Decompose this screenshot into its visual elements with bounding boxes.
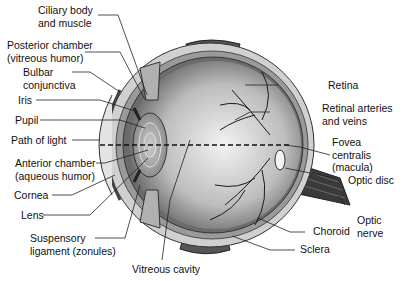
- label-cornea: Cornea: [14, 189, 48, 202]
- label-lens: Lens: [21, 209, 44, 222]
- label-posterior-chamber: Posterior chamber(vitreous humor): [7, 39, 93, 64]
- label-optic-nerve: Opticnerve: [357, 214, 383, 239]
- label-vitreous-cavity: Vitreous cavity: [132, 263, 200, 276]
- label-ciliary-body: Ciliary bodyand muscle: [38, 4, 93, 29]
- eye-diagram: Ciliary bodyand muscle Posterior chamber…: [0, 0, 402, 281]
- label-sclera: Sclera: [300, 243, 330, 256]
- label-fovea-centralis: Foveacentralis(macula): [332, 136, 373, 174]
- label-choroid: Choroid: [313, 225, 350, 238]
- label-pupil: Pupil: [15, 114, 38, 127]
- label-retinal-arteries: Retinal arteriesand veins: [322, 102, 393, 127]
- label-retina: Retina: [328, 79, 358, 92]
- label-iris: Iris: [18, 94, 32, 107]
- label-path-of-light: Path of light: [11, 134, 66, 147]
- label-optic-disc: Optic disc: [348, 174, 394, 187]
- label-suspensory-ligament: Suspensoryligament (zonules): [30, 232, 116, 257]
- label-bulbar-conjunctiva: Bulbarconjunctiva: [23, 66, 76, 91]
- label-anterior-chamber: Anterior chamber(aqueous humor): [15, 157, 96, 182]
